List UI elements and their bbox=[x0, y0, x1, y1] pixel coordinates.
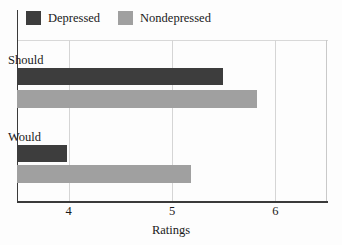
legend-swatch-depressed-icon bbox=[26, 11, 41, 25]
x-tick-4: 4 bbox=[66, 205, 72, 218]
legend-item-nondepressed: Nondepressed bbox=[118, 11, 211, 25]
x-tick-5: 5 bbox=[169, 205, 175, 218]
group-label-should: Should bbox=[8, 54, 43, 67]
gridline-6 bbox=[275, 40, 276, 201]
bar-chart: Depressed Nondepressed Should Would 4 5 … bbox=[0, 0, 342, 245]
x-axis-title: Ratings bbox=[152, 224, 190, 237]
legend-swatch-nondepressed-icon bbox=[118, 11, 133, 25]
legend-label-depressed: Depressed bbox=[48, 12, 100, 25]
x-tick-6: 6 bbox=[272, 205, 278, 218]
x-axis-line bbox=[17, 201, 328, 203]
legend-item-depressed: Depressed bbox=[26, 11, 100, 25]
plot-right-border bbox=[326, 40, 327, 201]
bar-would-nondepressed bbox=[17, 165, 191, 183]
plot-area bbox=[17, 40, 327, 201]
legend-label-nondepressed: Nondepressed bbox=[140, 12, 211, 25]
group-label-would: Would bbox=[8, 131, 41, 144]
bar-should-nondepressed bbox=[17, 90, 257, 108]
bar-would-depressed bbox=[17, 145, 67, 162]
chart-legend: Depressed Nondepressed bbox=[26, 11, 211, 25]
bar-should-depressed bbox=[17, 68, 223, 85]
